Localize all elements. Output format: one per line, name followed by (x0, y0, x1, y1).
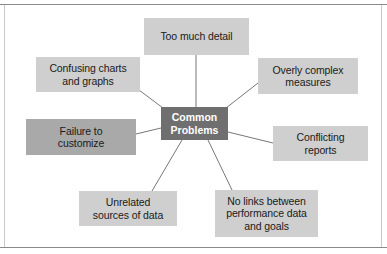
node-label-line-1: Conflicting (294, 131, 348, 144)
connector-to-failure-to-customize (136, 128, 161, 134)
connector-to-conflicting-reports (228, 132, 273, 143)
node-label-line-3: and goals (241, 220, 292, 233)
diagram-canvas: Too much detail Confusing charts and gra… (0, 0, 387, 254)
node-failure-to-customize[interactable]: Failure to customize (26, 119, 136, 155)
node-confusing-charts-and-graphs[interactable]: Confusing charts and graphs (36, 57, 140, 92)
node-conflicting-reports[interactable]: Conflicting reports (273, 126, 368, 161)
node-unrelated-sources-of-data[interactable]: Unrelated sources of data (79, 191, 177, 226)
connector-to-unrelated-sources (152, 140, 182, 191)
connector-to-confusing-charts (139, 90, 163, 108)
node-label-line-1: Confusing charts (46, 62, 129, 75)
node-overly-complex-measures[interactable]: Overly complex measures (258, 58, 358, 94)
node-label-line-2: reports (302, 144, 340, 157)
connector-to-overly-complex-measures (226, 83, 258, 108)
node-label-line-1: Failure to (57, 125, 106, 138)
node-no-links-between-performance-data-and-goals[interactable]: No links between performance data and go… (215, 190, 318, 237)
node-label-line-2: customize (55, 137, 107, 150)
node-label-line-2: and graphs (59, 75, 117, 88)
node-label-line-2: sources of data (90, 209, 166, 222)
node-label-line-2: measures (282, 76, 333, 89)
node-label-line-2: performance data (223, 207, 310, 220)
hub-common-problems[interactable]: Common Problems (161, 107, 228, 140)
hub-label-line-1: Common (169, 111, 221, 124)
node-label: Too much detail (157, 30, 235, 43)
connector-to-no-links-between (208, 140, 232, 190)
hub-label-line-2: Problems (168, 124, 222, 137)
node-too-much-detail[interactable]: Too much detail (144, 18, 249, 55)
node-label-line-1: No links between (224, 195, 308, 208)
node-label-line-1: Unrelated (103, 196, 154, 209)
node-label-line-1: Overly complex (270, 64, 347, 77)
